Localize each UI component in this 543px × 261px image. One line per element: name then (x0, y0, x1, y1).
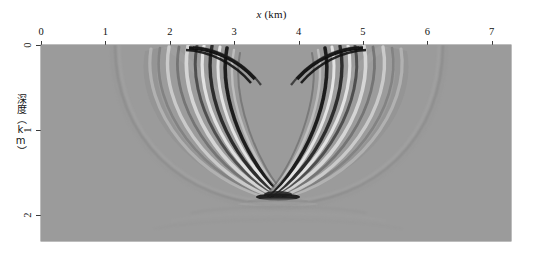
y-axis-title: 深度（km） (12, 94, 28, 156)
x-tick-label: 4 (296, 26, 301, 38)
plot-image-panel (41, 45, 511, 241)
x-tick-label: 1 (103, 26, 108, 38)
x-tick-label: 5 (360, 26, 365, 38)
y-tick-label: 0 (22, 42, 33, 47)
seismic-migration-figure: x (km) 深度（km） 01234567 012 (0, 0, 543, 261)
y-tick-label: 1 (22, 128, 33, 133)
x-tick-label: 7 (489, 26, 494, 38)
x-tick-label: 2 (167, 26, 172, 38)
y-tick-label: 2 (22, 213, 33, 218)
x-tick-label: 3 (232, 26, 237, 38)
x-axis-title-unit: (km) (261, 8, 286, 20)
migration-impulse-response-image (41, 45, 511, 241)
x-tick-label: 6 (425, 26, 430, 38)
x-tick-label: 0 (38, 26, 43, 38)
x-axis-title: x (km) (0, 8, 543, 20)
